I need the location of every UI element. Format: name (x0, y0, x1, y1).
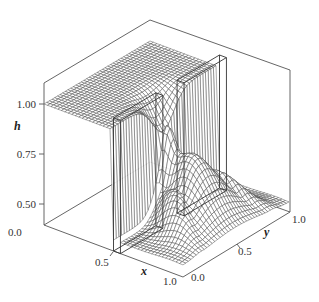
z-tick-label: 0.75 (17, 148, 37, 160)
surface-mesh (44, 41, 289, 265)
y-tick-label: 0.5 (238, 245, 252, 257)
x-tick-label: 0.0 (8, 226, 22, 238)
x-tick-label: 1.0 (163, 275, 177, 287)
y-axis-label: y (262, 225, 270, 239)
surface-plot: 1.00 0.75 0.50 h 0.0 0.5 1.0 x 0.0 0.5 1… (0, 0, 319, 302)
z-axis: 1.00 0.75 0.50 h (14, 98, 44, 210)
x-tick-label: 0.5 (95, 256, 109, 268)
z-axis-label: h (14, 119, 21, 133)
y-tick-label: 1.0 (292, 213, 306, 225)
y-tick-label: 0.0 (191, 271, 205, 283)
z-tick-label: 1.00 (17, 98, 37, 110)
x-axis-label: x (140, 264, 147, 278)
z-tick-label: 0.50 (17, 198, 37, 210)
